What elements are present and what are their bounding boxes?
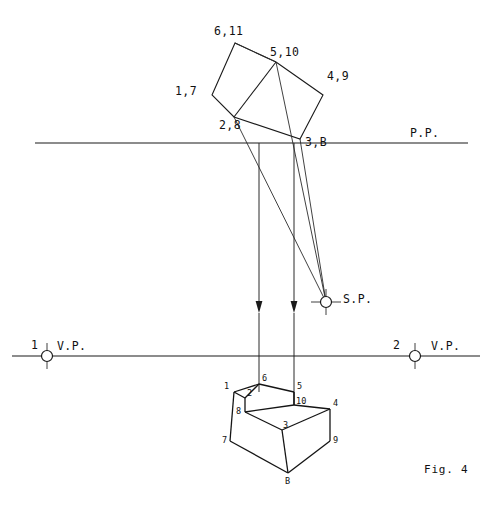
figure-canvas: P.P. S.P. <box>0 0 493 512</box>
object-edge-p1-p2 <box>234 392 245 398</box>
sight-line-from-5-10 <box>276 62 326 302</box>
plan-label-1-7: 1,7 <box>175 84 197 98</box>
plan-label-6-11: 6,11 <box>214 24 243 38</box>
object-label-10: 10 <box>296 396 307 406</box>
left-vanishing-point-group: 1 V.P. <box>31 338 86 369</box>
projector-arrow-right <box>291 301 298 313</box>
plan-label-3-B: 3,B <box>305 135 327 149</box>
object-edge-p8-p3 <box>245 412 282 430</box>
right-vanishing-point-marker <box>410 351 421 362</box>
object-label-7: 7 <box>222 435 227 445</box>
object-label-4: 4 <box>333 398 338 408</box>
station-point-marker <box>321 297 332 308</box>
plan-label-2-8: 2,8 <box>219 118 241 132</box>
plan-label-5-10: 5,10 <box>270 45 299 59</box>
right-vanishing-point-label: V.P. <box>431 339 460 353</box>
projectors-group <box>256 143 298 392</box>
object-edge-p7-pB <box>230 441 288 473</box>
station-point-group: S.P. <box>311 289 372 315</box>
object-edge-p3-pB <box>282 430 288 473</box>
object-label-3: 3 <box>283 420 288 430</box>
sight-line-from-3-B <box>300 139 326 302</box>
sight-lines-group <box>234 62 326 302</box>
left-vanishing-point-label: V.P. <box>57 339 86 353</box>
plan-label-4-9: 4,9 <box>327 69 349 83</box>
object-label-B: B <box>285 476 290 486</box>
figure-caption: Fig. 4 <box>424 463 469 476</box>
object-edge-p6-p5 <box>259 384 294 392</box>
object-label-6: 6 <box>262 373 267 383</box>
plan-view-labels: 6,115,104,91,72,83,B <box>175 24 349 149</box>
object-view-group <box>230 384 330 473</box>
object-label-2: 2 <box>247 388 252 398</box>
left-vanishing-point-number: 1 <box>31 338 38 352</box>
object-label-9: 9 <box>333 435 338 445</box>
horizon-group: 1 V.P. 2 V.P. <box>12 338 480 369</box>
object-edge-p1-p7 <box>230 392 234 441</box>
object-label-8: 8 <box>236 406 241 416</box>
perspective-drawing-figure: P.P. S.P. <box>0 0 493 512</box>
left-vanishing-point-marker <box>42 351 53 362</box>
object-edge-p3-p4 <box>282 409 330 430</box>
projector-arrow-left <box>256 301 263 313</box>
plan-divider-5-10-to-2-8 <box>234 62 276 117</box>
object-label-5: 5 <box>297 381 302 391</box>
picture-plane-label: P.P. <box>410 126 439 140</box>
station-point-label: S.P. <box>343 292 372 306</box>
object-edge-pB-p9 <box>288 441 330 473</box>
object-label-1: 1 <box>224 381 229 391</box>
right-vanishing-point-number: 2 <box>393 338 400 352</box>
picture-plane-group: P.P. <box>35 126 468 143</box>
object-edge-p8-p10 <box>245 405 294 412</box>
right-vanishing-point-group: 2 V.P. <box>393 338 460 369</box>
